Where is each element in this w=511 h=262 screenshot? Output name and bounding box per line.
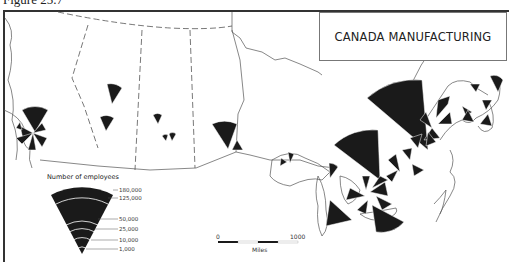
legend-value: 125,000: [119, 195, 142, 201]
legend-value: 25,000: [119, 226, 138, 232]
legend-value: 180,000: [119, 187, 142, 193]
scale-bar: [218, 241, 298, 243]
scale-unit: Miles: [252, 246, 267, 253]
legend-wedge: [51, 187, 118, 254]
scale-end: 1000: [290, 233, 305, 240]
legend-value: 50,000: [119, 216, 138, 222]
map-title: CANADA MANUFACTURING: [335, 30, 492, 44]
territorial-boundaries: [58, 12, 232, 170]
map-title-box: CANADA MANUFACTURING: [319, 12, 507, 61]
legend-value: 1,000: [119, 246, 135, 252]
legend-value: 10,000: [119, 237, 138, 243]
scale-start: 0: [216, 233, 220, 240]
legend-title: Number of employees: [47, 173, 119, 181]
